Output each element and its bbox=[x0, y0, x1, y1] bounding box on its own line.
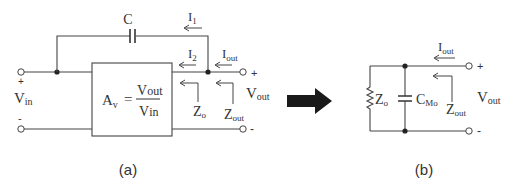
panel-b: Iout Zo CMo Zout + Vout - (b) bbox=[367, 39, 501, 178]
vout-minus-sign: - bbox=[250, 122, 254, 136]
b-output-minus-terminal bbox=[466, 128, 472, 134]
output-minus-terminal bbox=[240, 126, 246, 132]
vout-label: Vout bbox=[246, 85, 270, 102]
caption-a: (a) bbox=[119, 161, 137, 178]
zout-label: Zout bbox=[224, 107, 245, 123]
zo-resistor bbox=[367, 66, 373, 131]
b-output-plus-terminal bbox=[466, 63, 472, 69]
svg-text:=: = bbox=[124, 91, 132, 107]
zo-label: Zo bbox=[193, 104, 207, 120]
vin-minus-sign: - bbox=[18, 112, 22, 124]
i1-label: I1 bbox=[188, 9, 197, 26]
b-cmo-label: CMo bbox=[416, 92, 438, 108]
vin-plus-sign: + bbox=[18, 76, 24, 87]
capacitor-label: C bbox=[123, 12, 132, 27]
bottom-junction-dot bbox=[402, 128, 407, 133]
transform-arrow-icon bbox=[287, 88, 332, 114]
i2-label: I2 bbox=[188, 46, 197, 63]
input-plus-terminal bbox=[18, 69, 24, 75]
svg-text:Vout: Vout bbox=[137, 83, 163, 98]
circuit-diagram: C I1 I2 Iout + Vin - + Vout - Av = Vout … bbox=[0, 0, 508, 189]
zout-arrow bbox=[217, 83, 233, 104]
panel-a: C I1 I2 Iout + Vin - + Vout - Av = Vout … bbox=[14, 9, 270, 178]
b-vout-minus-sign: - bbox=[477, 124, 481, 138]
zo-arrow bbox=[181, 83, 198, 102]
b-zo-label: Zo bbox=[375, 92, 389, 108]
b-vout-plus-sign: + bbox=[477, 60, 483, 72]
b-vout-label: Vout bbox=[477, 89, 501, 106]
vin-label: Vin bbox=[14, 90, 33, 107]
caption-b: (b) bbox=[415, 161, 433, 178]
input-minus-terminal bbox=[18, 126, 24, 132]
iout-label: Iout bbox=[222, 46, 238, 63]
svg-text:Vin: Vin bbox=[139, 104, 158, 119]
output-junction-dot bbox=[205, 69, 210, 74]
output-plus-terminal bbox=[240, 69, 246, 75]
b-iout-label: Iout bbox=[438, 39, 454, 56]
top-junction-dot bbox=[402, 63, 407, 68]
vout-plus-sign: + bbox=[251, 67, 257, 79]
b-zout-label: Zout bbox=[446, 102, 467, 118]
